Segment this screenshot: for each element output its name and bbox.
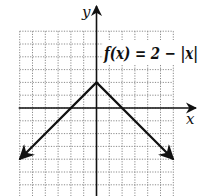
x-axis-label: x [186,110,195,128]
function-label: f(x) = 2 − |x| [103,44,198,63]
graph: y x f(x) = 2 − |x| [0,0,199,196]
y-axis-label: y [81,3,91,21]
